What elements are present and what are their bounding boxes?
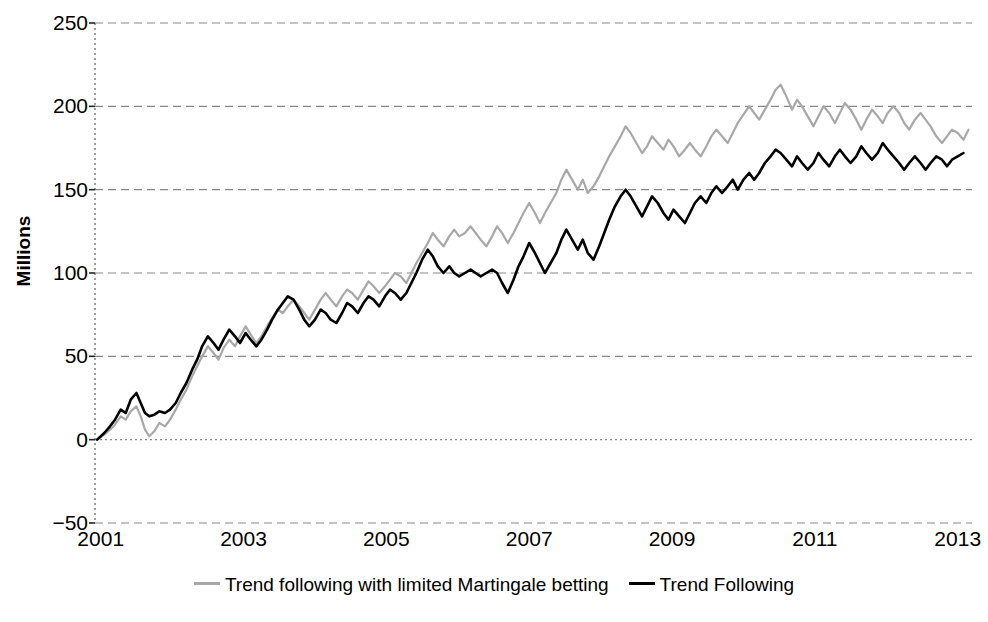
x-tick-label: 2011: [775, 528, 855, 549]
legend-label: Trend Following: [660, 574, 794, 596]
series-line-2: [97, 143, 963, 440]
x-tick-label: 2009: [632, 528, 712, 549]
legend-item: Trend Following: [629, 573, 794, 596]
chart-legend: Trend following with limited Martingale …: [0, 573, 988, 596]
chart-container: Millions 250200150100500−50 Trend follow…: [0, 0, 988, 622]
x-tick-label: 2013: [918, 528, 988, 549]
series-line-1: [97, 85, 968, 440]
legend-item: Trend following with limited Martingale …: [194, 573, 609, 596]
x-tick-label: 2003: [204, 528, 284, 549]
legend-swatch-icon: [194, 582, 220, 585]
legend-label: Trend following with limited Martingale …: [225, 574, 609, 596]
x-tick-label: 2007: [489, 528, 569, 549]
x-tick-label: 2005: [346, 528, 426, 549]
legend-swatch-icon: [629, 582, 655, 585]
x-tick-label: 2001: [61, 528, 141, 549]
